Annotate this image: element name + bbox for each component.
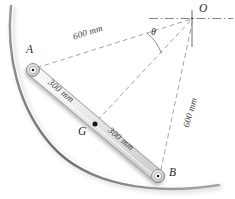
pin-joint-icon-A xyxy=(27,64,40,77)
point-label-G: G xyxy=(78,126,86,138)
angle-label-theta: θ xyxy=(151,27,156,37)
point-label-O: O xyxy=(199,3,207,15)
dashed-line-O-to-B xyxy=(160,21,193,174)
dashed-line-O-to-G xyxy=(96,21,191,123)
mechanics-figure: O A B G θ 600 mm 300 mm 300 mm 600 mm xyxy=(0,0,235,199)
point-label-A: A xyxy=(26,44,33,56)
pivot-point-O-marker xyxy=(191,17,193,19)
point-label-B: B xyxy=(169,167,176,179)
center-of-mass-dot-icon xyxy=(93,122,98,127)
circular-guide-arc xyxy=(10,6,219,189)
dashed-line-O-to-A xyxy=(36,20,190,69)
pin-joint-icon-B xyxy=(152,170,165,183)
figure-canvas xyxy=(0,0,235,199)
